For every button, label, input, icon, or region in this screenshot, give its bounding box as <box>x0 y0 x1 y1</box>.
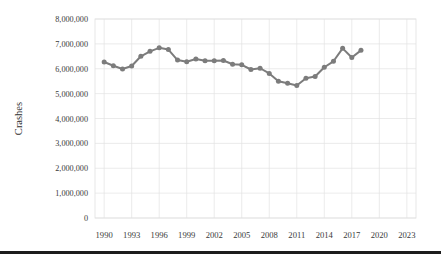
x-axis-tick-label: 2023 <box>398 230 415 240</box>
x-axis-tick-label: 2011 <box>288 230 305 240</box>
data-point-marker <box>313 74 318 79</box>
data-point-marker <box>358 48 363 53</box>
y-axis-tick-label: 0 <box>84 214 88 223</box>
x-axis-tick-label: 2020 <box>371 230 388 240</box>
data-point-marker <box>203 58 208 63</box>
y-axis-title: Crashes <box>13 102 24 135</box>
data-point-marker <box>175 58 180 63</box>
y-axis-tick-label: 6,000,000 <box>55 65 88 74</box>
data-point-marker <box>239 62 244 67</box>
y-axis-tick-label: 7,000,000 <box>55 40 88 49</box>
y-axis-tick-label: 2,000,000 <box>55 164 88 173</box>
x-axis-tick-label: 1996 <box>151 230 169 240</box>
y-axis-tick-label: 8,000,000 <box>55 15 88 24</box>
data-point-marker <box>331 59 336 64</box>
x-axis-tick-label: 1999 <box>178 230 195 240</box>
x-axis-tick-label: 2008 <box>261 230 278 240</box>
data-point-marker <box>349 55 354 60</box>
data-point-marker <box>267 71 272 76</box>
data-point-marker <box>258 66 263 71</box>
bottom-horizontal-rule <box>0 251 441 254</box>
y-axis-tick-label: 1,000,000 <box>55 189 88 198</box>
data-point-marker <box>340 46 345 51</box>
data-point-marker <box>120 66 125 71</box>
data-point-marker <box>212 58 217 63</box>
data-point-marker <box>166 47 171 52</box>
x-axis-tick-label: 2005 <box>233 230 250 240</box>
data-point-marker <box>221 58 226 63</box>
x-axis-tick-label: 2017 <box>343 230 361 240</box>
data-point-marker <box>102 60 107 65</box>
data-point-marker <box>248 67 253 72</box>
data-point-marker <box>111 63 116 68</box>
data-point-marker <box>184 59 189 64</box>
crashes-line-chart: 01,000,0002,000,0003,000,0004,000,0005,0… <box>0 0 441 260</box>
x-axis-tick-label: 2002 <box>206 230 223 240</box>
y-axis-tick-label: 5,000,000 <box>55 90 88 99</box>
data-point-marker <box>285 81 290 86</box>
x-axis-tick-label: 1990 <box>96 230 113 240</box>
data-point-marker <box>322 65 327 70</box>
data-point-marker <box>193 57 198 62</box>
data-point-marker <box>276 79 281 84</box>
data-point-marker <box>230 62 235 67</box>
data-point-marker <box>138 54 143 59</box>
x-axis-tick-label: 1993 <box>123 230 140 240</box>
data-point-marker <box>148 49 153 54</box>
data-point-marker <box>303 76 308 81</box>
data-point-marker <box>157 45 162 50</box>
y-axis-tick-label: 4,000,000 <box>55 115 88 124</box>
data-point-marker <box>294 83 299 88</box>
chart-canvas: 01,000,0002,000,0003,000,0004,000,0005,0… <box>0 0 441 252</box>
y-axis-tick-label: 3,000,000 <box>55 139 88 148</box>
data-point-marker <box>129 64 134 69</box>
x-axis-tick-label: 2014 <box>316 230 334 240</box>
